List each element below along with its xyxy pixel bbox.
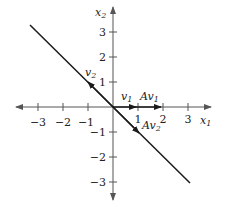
x-tick-label: −2 [55,116,71,129]
x-tick-label: −3 [30,116,46,129]
y-tick-label: 2 [99,51,106,64]
v2-label: v2 [85,66,96,80]
v1-label: v1 [121,90,132,104]
x-tick-label: 3 [185,113,192,126]
eigenvector-diagram: −3 −2 −1 1 2 3 3 2 1 −1 −2 −3 x1 x2 v1 A… [0,0,227,207]
y-axis-label: x2 [95,6,106,20]
x-tick-label: 1 [135,113,142,126]
x-axis-label: x1 [200,114,211,128]
Av2-label: Av2 [141,119,161,133]
y-tick-label: −2 [90,151,106,164]
y-tick-label: −3 [90,176,106,189]
y-tick-label: 1 [99,76,106,89]
y-tick-label: 3 [99,26,106,39]
y-tick-label: −1 [90,126,106,139]
x-tick-labels: −3 −2 −1 1 2 3 [30,113,192,129]
Av1-label: Av1 [139,90,159,104]
